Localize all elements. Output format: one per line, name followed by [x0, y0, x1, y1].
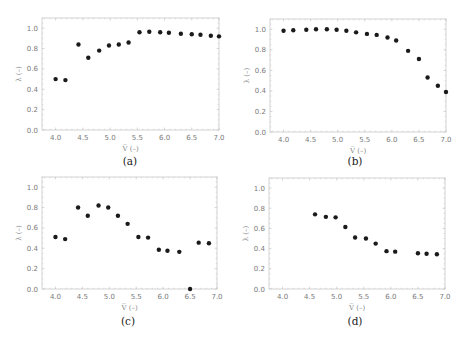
y-tick-label: 0.0: [255, 129, 266, 137]
x-tick-label: 4.0: [278, 136, 289, 144]
x-tick-label: 6.0: [386, 136, 397, 144]
data-point: [417, 57, 421, 61]
data-point: [97, 48, 101, 52]
data-point: [207, 241, 211, 245]
y-tick-label: 0.8: [255, 46, 266, 54]
y-tick-label: 0.6: [27, 65, 39, 73]
y-tick-label: 0.4: [27, 245, 39, 253]
x-tick-label: 6.0: [385, 293, 396, 301]
data-point: [325, 27, 329, 31]
data-point: [425, 75, 429, 79]
data-point: [147, 30, 151, 34]
data-point: [435, 252, 439, 256]
y-tick-label: 1.0: [27, 25, 38, 33]
x-tick-label: 7.0: [211, 293, 222, 301]
y-tick-label: 0.8: [27, 45, 38, 53]
plot-frame: [269, 178, 445, 289]
panel-label: (a): [123, 155, 137, 167]
x-tick-label: 4.0: [50, 134, 61, 142]
data-point: [313, 212, 317, 216]
y-tick-label: 0.0: [254, 286, 265, 294]
x-tick-label: 7.0: [440, 136, 451, 144]
y-tick-label: 0.8: [254, 205, 265, 213]
x-tick-label: 5.0: [332, 136, 343, 144]
x-tick-label: 5.0: [331, 293, 342, 301]
data-point: [146, 235, 150, 239]
data-point: [126, 40, 130, 44]
y-tick-label: 0.6: [255, 67, 267, 75]
data-point: [406, 49, 410, 53]
data-point: [333, 215, 337, 219]
y-tick-label: 0.6: [254, 225, 266, 233]
x-tick-label: 7.0: [213, 134, 224, 142]
data-point: [96, 203, 100, 207]
data-point: [384, 249, 388, 253]
y-tick-label: 0.2: [27, 265, 38, 273]
data-point: [373, 241, 377, 245]
data-point: [63, 78, 67, 82]
x-tick-label: 4.5: [304, 293, 315, 301]
figure: 4.04.55.05.56.06.57.00.00.20.40.60.81.0V…: [0, 0, 470, 347]
data-point: [86, 56, 90, 60]
data-point: [116, 213, 120, 217]
data-point: [424, 251, 428, 255]
x-tick-label: 5.5: [359, 136, 370, 144]
data-point: [179, 32, 183, 36]
panel-label: (c): [121, 315, 135, 327]
x-tick-label: 6.5: [185, 293, 196, 301]
data-point: [324, 215, 328, 219]
data-point: [106, 205, 110, 209]
data-point: [334, 28, 338, 32]
data-point: [343, 225, 347, 229]
x-tick-label: 5.5: [131, 293, 142, 301]
data-point: [416, 251, 420, 255]
x-axis-label: V̅ (–): [121, 144, 139, 153]
data-point: [354, 30, 358, 34]
x-tick-label: 4.5: [77, 293, 88, 301]
chart-panel-3: 4.04.55.05.56.06.57.00.00.20.40.60.81.0V…: [15, 177, 223, 327]
data-point: [217, 34, 221, 38]
x-tick-label: 6.5: [412, 293, 423, 301]
data-point: [314, 27, 318, 31]
data-point: [444, 90, 448, 94]
data-point: [137, 30, 141, 34]
data-point: [209, 34, 213, 38]
x-axis-label: V̅ (–): [349, 146, 367, 155]
x-tick-label: 5.5: [358, 293, 369, 301]
data-point: [53, 235, 57, 239]
data-point: [344, 29, 348, 33]
y-tick-label: 0.2: [255, 108, 266, 116]
y-tick-label: 0.6: [27, 224, 39, 232]
data-point: [196, 240, 200, 244]
x-tick-label: 4.0: [277, 293, 288, 301]
data-point: [177, 250, 181, 254]
data-point: [353, 235, 357, 239]
x-tick-label: 4.0: [50, 293, 61, 301]
y-tick-label: 0.4: [254, 245, 266, 253]
data-point: [125, 222, 129, 226]
x-tick-label: 4.5: [305, 136, 316, 144]
x-tick-label: 6.0: [159, 134, 170, 142]
chart-panel-4: 4.04.55.05.56.06.57.00.00.20.40.60.81.0V…: [242, 178, 451, 327]
panel-label: (b): [348, 155, 363, 167]
data-point: [63, 237, 67, 241]
y-tick-label: 0.8: [27, 204, 38, 212]
data-point: [158, 30, 162, 34]
data-point: [385, 35, 389, 39]
y-tick-label: 0.0: [27, 127, 38, 135]
y-tick-label: 0.2: [254, 265, 265, 273]
data-point: [117, 42, 121, 46]
data-point: [165, 249, 169, 253]
x-tick-label: 5.0: [105, 134, 116, 142]
y-tick-label: 1.0: [254, 185, 265, 193]
data-point: [436, 84, 440, 88]
data-point: [364, 236, 368, 240]
y-axis-label: λ (–): [243, 67, 251, 83]
x-tick-label: 4.5: [77, 134, 88, 142]
data-point: [190, 32, 194, 36]
y-tick-label: 0.4: [27, 86, 39, 94]
y-axis-label: λ (–): [242, 225, 250, 241]
data-point: [394, 38, 398, 42]
data-point: [374, 33, 378, 37]
data-point: [136, 235, 140, 239]
